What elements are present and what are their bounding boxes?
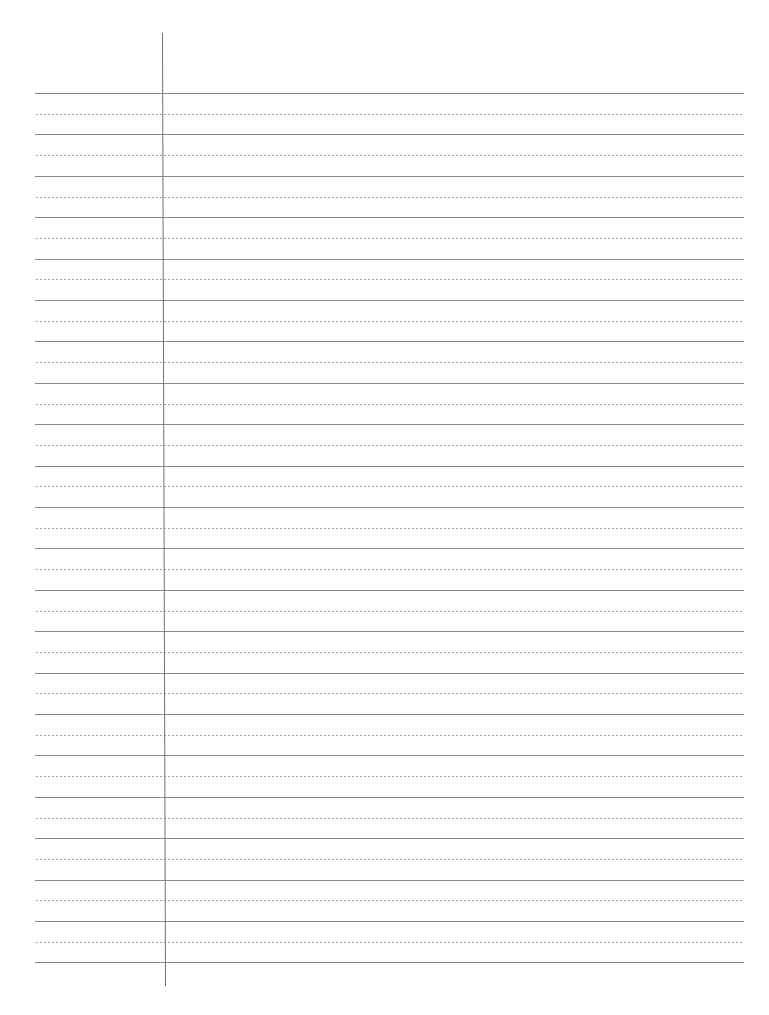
solid-rule bbox=[35, 93, 744, 94]
dotted-rule bbox=[35, 942, 744, 943]
dotted-rule bbox=[35, 735, 744, 736]
solid-rule bbox=[35, 259, 744, 260]
dotted-rule bbox=[35, 486, 744, 487]
solid-rule bbox=[35, 880, 744, 881]
dotted-rule bbox=[35, 238, 744, 239]
dotted-rule bbox=[35, 528, 744, 529]
solid-rule bbox=[35, 466, 744, 467]
solid-rule bbox=[35, 217, 744, 218]
dotted-rule bbox=[35, 445, 744, 446]
dotted-rule bbox=[35, 693, 744, 694]
lined-paper bbox=[0, 0, 769, 1015]
solid-rule bbox=[35, 714, 744, 715]
dotted-rule bbox=[35, 818, 744, 819]
solid-rule bbox=[35, 921, 744, 922]
dotted-rule bbox=[35, 114, 744, 115]
solid-rule bbox=[35, 673, 744, 674]
dotted-rule bbox=[35, 900, 744, 901]
dotted-rule bbox=[35, 776, 744, 777]
solid-rule bbox=[35, 300, 744, 301]
dotted-rule bbox=[35, 652, 744, 653]
solid-rule bbox=[35, 134, 744, 135]
solid-rule bbox=[35, 383, 744, 384]
dotted-rule bbox=[35, 611, 744, 612]
solid-rule bbox=[35, 424, 744, 425]
solid-rule bbox=[35, 548, 744, 549]
solid-rule bbox=[35, 755, 744, 756]
solid-rule bbox=[35, 838, 744, 839]
dotted-rule bbox=[35, 362, 744, 363]
solid-rule bbox=[35, 797, 744, 798]
dotted-rule bbox=[35, 279, 744, 280]
dotted-rule bbox=[35, 321, 744, 322]
dotted-rule bbox=[35, 569, 744, 570]
solid-rule bbox=[35, 631, 744, 632]
dotted-rule bbox=[35, 197, 744, 198]
solid-rule bbox=[35, 341, 744, 342]
solid-rule bbox=[35, 176, 744, 177]
solid-rule bbox=[35, 962, 744, 963]
dotted-rule bbox=[35, 404, 744, 405]
dotted-rule bbox=[35, 859, 744, 860]
solid-rule bbox=[35, 590, 744, 591]
dotted-rule bbox=[35, 155, 744, 156]
solid-rule bbox=[35, 507, 744, 508]
